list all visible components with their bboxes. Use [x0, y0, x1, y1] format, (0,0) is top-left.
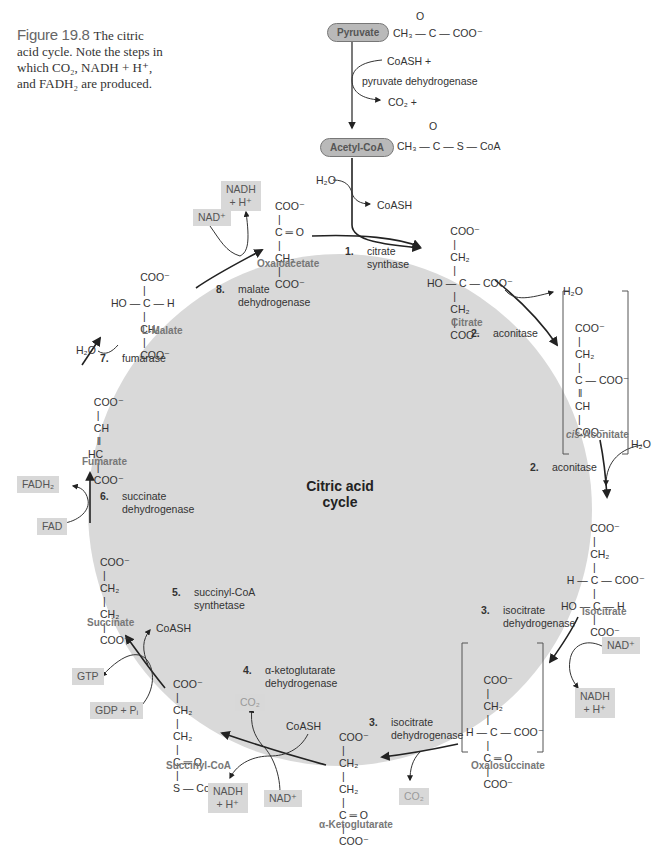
- l-malate-label: L-Malate: [142, 325, 183, 336]
- step-8-malate-dh: 8.malatedehydrogenase: [216, 283, 310, 309]
- acetyl-coa-formula: CH₃ — C — S — CoA: [397, 140, 500, 153]
- figure-label: Figure 19.8: [17, 26, 90, 43]
- water-input-step7: H₂O: [76, 344, 96, 357]
- pdh-co2-output: CO₂ +: [388, 96, 417, 109]
- pyruvate-pill: Pyruvate: [327, 23, 389, 42]
- coash-output-step1: CoASH: [377, 199, 412, 212]
- water-input-step1: H₂O: [316, 174, 336, 187]
- step-2-aconitase-a: 2.aconitase: [471, 327, 538, 340]
- oxaloacetate-label: Oxaloacetate: [257, 258, 319, 269]
- fad-input-step6: FAD: [37, 518, 67, 535]
- acetyl-coa-carbonyl: O: [428, 120, 438, 133]
- gdp-pi-input-step5: GDP + Pᵢ: [90, 702, 143, 719]
- fadh2-output-step6: FADH₂: [17, 476, 59, 493]
- co2-output-step4: CO₂: [235, 694, 265, 711]
- coash-output-step5: CoASH: [156, 622, 191, 635]
- step-7-fumarase: 7.fumarase: [100, 352, 166, 365]
- succinate-label: Succinate: [87, 617, 134, 628]
- step-5-succinyl-coa-synthetase: 5.succinyl-CoAsynthetase: [172, 586, 255, 612]
- step-3-isocitrate-dh-a: 3.isocitratedehydrogenase: [481, 604, 575, 630]
- nad-input-step3: NAD⁺: [602, 637, 640, 654]
- alpha-ketoglutarate-label: α-Ketoglutarate: [319, 819, 393, 830]
- cycle-title: Citric acid cycle: [270, 478, 410, 510]
- fumarate-structure: COO⁻ | CH ‖HC | COO⁻: [88, 370, 124, 500]
- nad-input-step8: NAD⁺: [193, 209, 231, 226]
- pyruvate-carbonyl: O: [415, 10, 425, 23]
- water-output-step2: H₂O: [563, 285, 583, 298]
- co2-output-step3: CO₂: [399, 788, 429, 805]
- cycle-title-line1: Citric acid: [270, 478, 410, 494]
- succinyl-coa-label: Succinyl-CoA: [166, 760, 231, 771]
- acetyl-coa-pill: Acetyl-CoA: [320, 138, 394, 157]
- pyruvate-formula: CH₃ — C — COO⁻: [393, 27, 483, 40]
- oxalosuccinate-label: Oxalosuccinate: [471, 760, 545, 771]
- pdh-enzyme: pyruvate dehydrogenase: [362, 75, 478, 88]
- nadh-output-step8: NADH+ H⁺: [221, 181, 261, 211]
- nad-input-step4: NAD⁺: [264, 790, 302, 807]
- step-4-akg-dh: 4.α-ketoglutaratedehydrogenase: [243, 664, 337, 690]
- water-input-step2: H₂O: [631, 438, 651, 451]
- figure-caption: Figure 19.8The citric acid cycle. Note t…: [17, 27, 167, 92]
- step-1-citrate-synthase: 1.citratesynthase: [345, 245, 409, 271]
- fumarate-label: Fumarate: [82, 456, 127, 467]
- nadh-output-step4: NADH+ H⁺: [208, 783, 248, 813]
- step-2-aconitase-b: 2.aconitase: [530, 461, 597, 474]
- step-3-isocitrate-dh-b: 3.isocitratedehydrogenase: [369, 716, 463, 742]
- gtp-output-step5: GTP: [72, 668, 104, 685]
- oxalosuccinate-structure: COO⁻ | CH₂ |H — C — COO⁻ | C ═ O | COO⁻: [466, 648, 544, 804]
- coash-input-step4: CoASH: [286, 720, 321, 733]
- cycle-title-line2: cycle: [270, 494, 410, 510]
- pdh-inputs: CoASH +: [387, 55, 431, 68]
- nadh-output-step3: NADH+ H⁺: [575, 688, 615, 718]
- step-6-succinate-dh: 6.succinatedehydrogenase: [100, 490, 194, 516]
- cis-aconitate-label: cis-Aconitate: [566, 429, 629, 440]
- isocitrate-label: Isocitrate: [582, 606, 626, 617]
- succinate-structure: COO⁻ |CH₂ |CH₂ |COO⁻: [100, 530, 130, 660]
